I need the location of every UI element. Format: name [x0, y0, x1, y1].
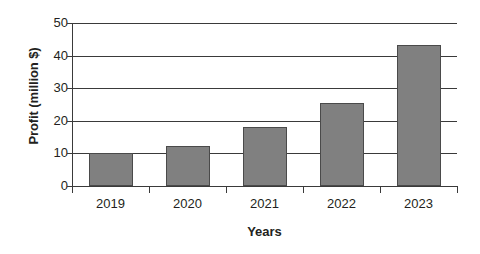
y-tick-label: 50 [42, 16, 68, 30]
plot-area [72, 23, 457, 186]
x-axis-tick-labels: 20192020202120222023 [72, 196, 457, 216]
bar-2019 [89, 153, 133, 186]
x-tick-label: 2019 [72, 196, 149, 212]
x-tick-label: 2021 [226, 196, 303, 212]
y-tick-label: 10 [42, 146, 68, 160]
bar-chart: Profit (million $) 01020304050 201920202… [0, 0, 480, 254]
y-axis-tick-labels: 01020304050 [42, 16, 68, 192]
y-tick-mark-30 [67, 88, 72, 89]
bar-2022 [320, 103, 364, 186]
x-tick-mark [72, 186, 73, 193]
x-tick-mark [457, 186, 458, 193]
x-axis-title: Years [72, 224, 457, 239]
y-tick-mark-50 [67, 23, 72, 24]
y-axis-title: Profit (million $) [22, 0, 44, 196]
bars-layer [72, 23, 457, 186]
y-tick-mark-40 [67, 56, 72, 57]
y-tick-label: 40 [42, 49, 68, 63]
x-tick-mark [226, 186, 227, 193]
y-tick-label: 20 [42, 114, 68, 128]
gridline-0 [72, 186, 457, 187]
x-tick-mark [149, 186, 150, 193]
x-tick-label: 2023 [380, 196, 457, 212]
bar-2020 [166, 146, 210, 186]
x-tick-label: 2022 [303, 196, 380, 212]
y-tick-label: 30 [42, 81, 68, 95]
x-tick-mark [380, 186, 381, 193]
x-tick-label: 2020 [149, 196, 226, 212]
y-tick-mark-10 [67, 153, 72, 154]
bar-2023 [397, 45, 441, 186]
bar-2021 [243, 127, 287, 186]
y-tick-label: 0 [42, 179, 68, 193]
x-tick-mark [303, 186, 304, 193]
y-tick-mark-20 [67, 121, 72, 122]
